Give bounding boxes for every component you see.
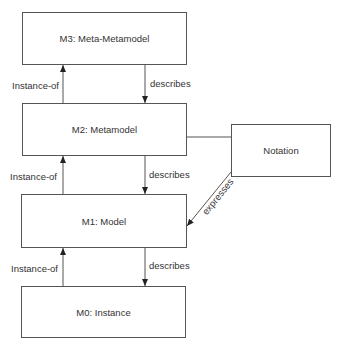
label-describes-m1-m0: describes bbox=[149, 260, 190, 271]
label-describes-m2-m1: describes bbox=[149, 169, 190, 180]
box-m1-label: M1: Model bbox=[82, 216, 126, 227]
box-m2-label: M2: Metamodel bbox=[72, 124, 137, 135]
label-instance-of-m1-m2: Instance-of bbox=[10, 171, 57, 182]
box-m3-meta-metamodel: M3: Meta-Metamodel bbox=[22, 12, 187, 65]
box-m2-metamodel: M2: Metamodel bbox=[22, 103, 187, 156]
box-m0-label: M0: Instance bbox=[76, 307, 130, 318]
box-m0-instance: M0: Instance bbox=[21, 286, 186, 338]
label-instance-of-m0-m1: Instance-of bbox=[11, 263, 58, 274]
label-describes-m3-m2: describes bbox=[150, 78, 191, 89]
box-m1-model: M1: Model bbox=[21, 194, 187, 248]
box-notation-label: Notation bbox=[263, 145, 298, 156]
label-instance-of-m2-m3: Instance-of bbox=[12, 80, 59, 91]
box-m3-label: M3: Meta-Metamodel bbox=[60, 33, 150, 44]
box-notation: Notation bbox=[231, 124, 331, 177]
